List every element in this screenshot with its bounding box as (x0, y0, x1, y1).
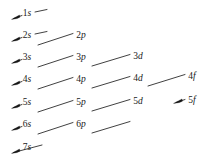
orbital-label-7s: 7s (23, 143, 32, 153)
orbital-label-6s: 6s (23, 120, 32, 130)
diagonal-5d-to-5p (92, 100, 130, 112)
orbital-label-2p: 2p (76, 31, 86, 41)
arrowhead-3s (12, 59, 20, 63)
orbital-label-1s: 1s (23, 9, 32, 19)
arrowhead-6s (12, 126, 20, 130)
orbital-label-4d: 4d (133, 74, 143, 84)
arrowhead-5f (174, 99, 183, 103)
diagonal-3p-to-3s (38, 56, 73, 68)
orbital-label-4f: 4f (188, 72, 196, 82)
arrowhead-1s (12, 15, 20, 19)
orbital-label-5d: 5d (133, 97, 143, 107)
arrowhead-4s (12, 81, 20, 85)
stub-line-2s (35, 32, 47, 35)
orbital-label-4s: 4s (23, 75, 32, 85)
diagonal-4f-to-4d (148, 75, 185, 87)
orbital-label-4p: 4p (76, 75, 86, 85)
diagonal-4p-to-4s (38, 78, 73, 90)
orbital-label-6p: 6p (76, 120, 86, 130)
arrowhead-5s (12, 104, 20, 108)
aufbau-diagram-figure: 1s 2s 2p 3s 3p 3d 4s 4p 4d 4f 5s 5p 5d 5… (0, 0, 206, 162)
orbital-label-2s: 2s (23, 31, 32, 41)
group-row-2 (12, 32, 74, 46)
diagonal-4d-to-4p (92, 77, 130, 89)
diagonal-2p-to-2s (38, 34, 73, 46)
orbital-label-3s: 3s (23, 53, 32, 63)
arrowhead-2s (12, 37, 20, 41)
diagonal-5p-to-5s (38, 101, 73, 113)
orbital-label-5f: 5f (188, 96, 196, 106)
orbital-label-3d: 3d (133, 52, 143, 62)
group-row-4 (12, 75, 186, 90)
diagonal-6p-tail (92, 122, 130, 134)
diagonal-6p-to-6s (38, 123, 73, 135)
arrowhead-7s (12, 149, 20, 153)
stub-line-1s (35, 10, 47, 13)
group-row-5 (12, 99, 186, 112)
orbital-label-5p: 5p (76, 98, 86, 108)
diagonal-3d-to-3p (92, 55, 130, 67)
orbital-label-3p: 3p (76, 53, 86, 63)
orbital-label-5s: 5s (23, 98, 32, 108)
